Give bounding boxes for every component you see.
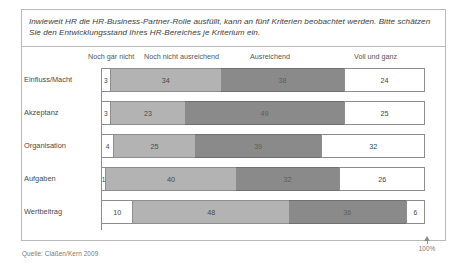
legend-label-voll-und-ganz: Voll und ganz: [354, 52, 397, 61]
bar-segment-noch-nicht-ausreichend: 34: [111, 68, 221, 92]
stacked-bar: 3 34 38 24: [101, 68, 425, 92]
chart-title: Inwieweit HR die HR-Business-Partner-Rol…: [29, 16, 437, 39]
bar-segment-noch-nicht-ausreichend: 23: [111, 101, 186, 125]
bar-value: 1: [102, 176, 106, 183]
bar-segment-ausreichend: 49: [185, 101, 344, 125]
bar-value: 32: [284, 175, 292, 184]
bar-segment-noch-gar-nicht: 3: [101, 68, 111, 92]
bar-segment-noch-gar-nicht: 4: [101, 134, 114, 158]
bar-value: 23: [144, 109, 152, 118]
bar-value: 6: [413, 209, 417, 216]
category-label-akzeptanz: Akzeptanz: [24, 108, 98, 117]
category-label-einfluss-macht: Einfluss/Macht: [24, 75, 98, 84]
bar-segment-voll-und-ganz: 6: [406, 200, 425, 224]
bar-value: 49: [261, 109, 269, 118]
chart-row: Aufgaben 1 40 32 26: [22, 167, 445, 191]
chart-row: Akzeptanz 3 23 49 25: [22, 101, 445, 125]
category-label-wertbeitrag: Wertbeitrag: [24, 207, 98, 216]
bar-segment-ausreichend: 38: [221, 68, 344, 92]
bar-value: 38: [278, 76, 286, 85]
axis-marker-label: 100%: [415, 245, 439, 252]
bar-value: 3: [104, 110, 108, 117]
category-label-aufgaben: Aufgaben: [24, 174, 98, 183]
chart-plot-area: Einfluss/Macht 3 34 38 24 Akzeptanz 3 23…: [22, 66, 445, 231]
bar-segment-ausreichend: 32: [236, 167, 340, 191]
legend-column-headers: Noch gar nicht Noch nicht ausreichend Au…: [22, 52, 445, 64]
chart-row: Wertbeitrag 10 48 36 6: [22, 200, 445, 224]
bar-value: 24: [380, 76, 388, 85]
bar-value: 36: [343, 208, 351, 217]
bar-value: 10: [113, 208, 121, 217]
legend-label-noch-nicht-ausreichend: Noch nicht ausreichend: [144, 52, 219, 61]
bar-value: 40: [167, 175, 175, 184]
bar-value: 48: [207, 208, 215, 217]
bar-value: 4: [106, 143, 110, 150]
category-label-organisation: Organisation: [24, 141, 98, 150]
bar-segment-noch-gar-nicht: 3: [101, 101, 111, 125]
chart-row: Einfluss/Macht 3 34 38 24: [22, 68, 445, 92]
stacked-bar: 10 48 36 6: [101, 200, 425, 224]
legend-label-ausreichend: Ausreichend: [250, 52, 290, 61]
arrow-stem: [427, 241, 428, 244]
legend-label-noch-gar-nicht: Noch gar nicht: [88, 52, 134, 61]
bar-segment-noch-nicht-ausreichend: 48: [133, 200, 289, 224]
title-area: Inwieweit HR die HR-Business-Partner-Rol…: [22, 10, 445, 47]
source-note: Quelle: Claßen/Kern 2009: [22, 250, 98, 257]
bar-value: 34: [162, 76, 170, 85]
bar-segment-noch-gar-nicht: 10: [101, 200, 133, 224]
bar-value: 25: [150, 142, 158, 151]
chart-row: Organisation 4 25 39 32: [22, 134, 445, 158]
bar-segment-noch-nicht-ausreichend: 40: [106, 167, 236, 191]
stacked-bar: 4 25 39 32: [101, 134, 425, 158]
stacked-bar: 1 40 32 26: [101, 167, 425, 191]
bar-value: 26: [378, 175, 386, 184]
bar-segment-voll-und-ganz: 26: [339, 167, 425, 191]
bar-value: 39: [254, 142, 262, 151]
bar-value: 25: [380, 109, 388, 118]
bar-segment-ausreichend: 39: [195, 134, 321, 158]
bar-value: 3: [104, 77, 108, 84]
stacked-bar: 3 23 49 25: [101, 101, 425, 125]
bar-segment-voll-und-ganz: 32: [321, 134, 425, 158]
bar-segment-noch-nicht-ausreichend: 25: [114, 134, 195, 158]
bar-value: 32: [369, 142, 377, 151]
bar-segment-voll-und-ganz: 25: [344, 101, 425, 125]
bar-segment-voll-und-ganz: 24: [344, 68, 425, 92]
slide-root: Inwieweit HR die HR-Business-Partner-Rol…: [0, 0, 468, 269]
axis-100-percent-marker: 100%: [415, 236, 439, 252]
bar-segment-ausreichend: 36: [289, 200, 406, 224]
chart-panel: Inwieweit HR die HR-Business-Partner-Rol…: [21, 9, 446, 241]
